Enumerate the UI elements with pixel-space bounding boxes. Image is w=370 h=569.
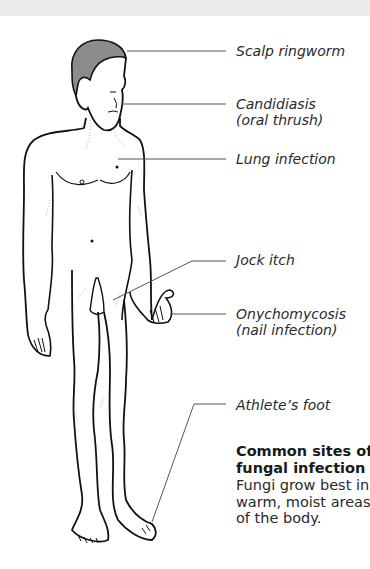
label-candidiasis: Candidiasis (oral thrush) (236, 96, 323, 128)
label-athletes-foot: Athlete’s foot (236, 397, 330, 413)
leader-lines (113, 51, 226, 522)
caption-title: Common sites of fungal infection (236, 443, 366, 477)
label-lung-infection: Lung infection (236, 151, 336, 167)
torso-outline (23, 118, 152, 335)
leader-athlete (152, 404, 226, 522)
stipple-shading (46, 120, 142, 422)
label-jock-itch: Jock itch (236, 252, 295, 268)
hair-shading (72, 40, 126, 96)
caption: Common sites of fungal infection Fungi g… (236, 443, 366, 527)
label-scalp-ringworm: Scalp ringworm (236, 43, 345, 59)
label-onychomycosis: Onychomycosis (nail infection) (236, 306, 346, 338)
caption-body: Fungi grow best in warm, moist areas of … (236, 477, 366, 527)
